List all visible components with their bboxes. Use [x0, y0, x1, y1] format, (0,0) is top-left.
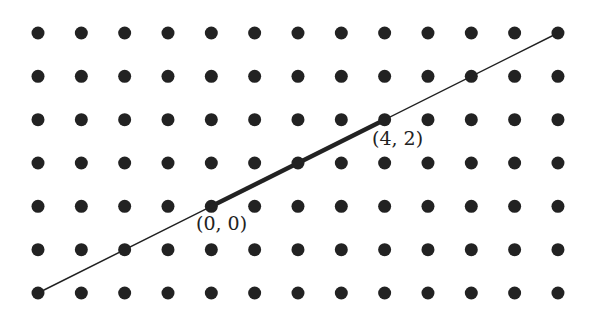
lattice-point [335, 287, 348, 300]
lattice-point [508, 157, 521, 170]
lattice-point [205, 157, 218, 170]
lattice-diagram: (0, 0) (4, 2) [0, 0, 594, 316]
lattice-point [508, 243, 521, 256]
origin-label: (0, 0) [196, 212, 247, 234]
lattice-point [32, 157, 45, 170]
lattice-point [248, 243, 261, 256]
lattice-point [378, 287, 391, 300]
lattice-point [75, 113, 88, 126]
lattice-point [118, 200, 131, 213]
lattice-point [205, 113, 218, 126]
lattice-point [118, 113, 131, 126]
lattice-point [335, 70, 348, 83]
lattice-point [291, 27, 304, 40]
lattice-point [161, 70, 174, 83]
lattice-point [161, 27, 174, 40]
lattice-point [465, 27, 478, 40]
lattice-point [248, 27, 261, 40]
lattice-point [551, 157, 564, 170]
lattice-point [335, 243, 348, 256]
lattice-point [205, 27, 218, 40]
lattice-point [291, 70, 304, 83]
lattice-point [32, 27, 45, 40]
lattice-point [421, 243, 434, 256]
lattice-point [75, 70, 88, 83]
lattice-point [118, 70, 131, 83]
lattice-point [421, 27, 434, 40]
thick-segment [211, 120, 384, 207]
lattice-point [75, 287, 88, 300]
lattice-point [421, 157, 434, 170]
lattice-point [378, 27, 391, 40]
lattice-point [205, 243, 218, 256]
lattice-point [291, 243, 304, 256]
lattice-point [248, 70, 261, 83]
lattice-point [161, 243, 174, 256]
lattice-point [421, 70, 434, 83]
lattice-point [291, 200, 304, 213]
lattice-point [248, 287, 261, 300]
lattice-point [465, 287, 478, 300]
lattice-point [75, 157, 88, 170]
lattice-point [118, 27, 131, 40]
lattice-point [378, 70, 391, 83]
endpoint-label: (4, 2) [372, 127, 423, 149]
lattice-point [421, 200, 434, 213]
lattice-point [551, 70, 564, 83]
lattice-point [551, 243, 564, 256]
lattice-point [32, 113, 45, 126]
lattice-point [32, 200, 45, 213]
lattice-point [248, 113, 261, 126]
lattice-point [551, 287, 564, 300]
lattice-point [291, 113, 304, 126]
lattice-point [508, 70, 521, 83]
lattice-point [378, 157, 391, 170]
lattice-point [75, 200, 88, 213]
lattice-point [161, 200, 174, 213]
lattice-point [32, 243, 45, 256]
lattice-point [551, 113, 564, 126]
lattice-point [248, 157, 261, 170]
lattice-point [118, 287, 131, 300]
lattice-point [465, 243, 478, 256]
lattice-point [465, 113, 478, 126]
lattice-point [291, 287, 304, 300]
lattice-point [335, 157, 348, 170]
lattice-point [75, 27, 88, 40]
lattice-point [335, 27, 348, 40]
lattice-point [421, 113, 434, 126]
lattice-point [32, 70, 45, 83]
lattice-point [508, 287, 521, 300]
lattice-point [508, 113, 521, 126]
lattice-point [75, 243, 88, 256]
lattice-plot [0, 0, 594, 316]
lattice-point [161, 287, 174, 300]
lattice-point [205, 70, 218, 83]
lattice-point [205, 287, 218, 300]
lattice-point [335, 200, 348, 213]
lattice-point [508, 200, 521, 213]
lattice-point [161, 157, 174, 170]
lattice-point [335, 113, 348, 126]
lattice-point [118, 157, 131, 170]
lattice-point [551, 200, 564, 213]
lattice-point [465, 157, 478, 170]
lattice-point [248, 200, 261, 213]
lattice-point [508, 27, 521, 40]
lattice-point [378, 200, 391, 213]
lattice-point [161, 113, 174, 126]
lattice-point [421, 287, 434, 300]
lattice-point [378, 243, 391, 256]
lattice-point [465, 200, 478, 213]
